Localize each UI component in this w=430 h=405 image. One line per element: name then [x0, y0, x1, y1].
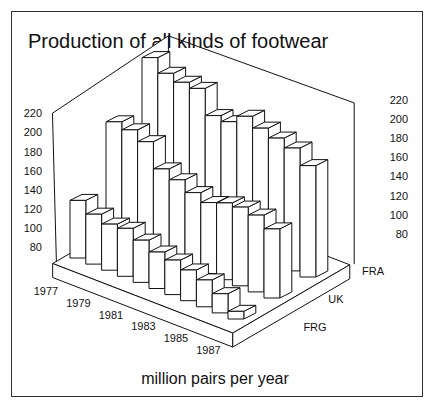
y-axis-left: 80100120140160180200220 — [24, 107, 42, 253]
year-label: 1983 — [131, 320, 155, 332]
bar-front — [165, 260, 181, 295]
y-axis-right: 80100120140160180200220 — [390, 94, 408, 240]
y-tick-label: 220 — [24, 107, 42, 119]
year-label: 1979 — [66, 297, 90, 309]
y-tick-label: 140 — [24, 184, 42, 196]
y-tick-label: 120 — [24, 203, 42, 215]
bar-front — [196, 280, 212, 307]
bar-front — [264, 229, 280, 298]
y-tick-label: 200 — [390, 113, 408, 125]
year-label: 1985 — [164, 332, 188, 344]
y-tick-label: 200 — [24, 126, 42, 138]
y-tick-label: 100 — [390, 209, 408, 221]
y-tick-label: 220 — [390, 94, 408, 106]
bar-front — [133, 240, 149, 282]
y-tick-label: 120 — [390, 190, 408, 202]
bar — [300, 160, 328, 277]
bar-front — [149, 252, 165, 288]
bar — [264, 223, 292, 298]
year-label: 1977 — [34, 285, 58, 297]
y-tick-label: 160 — [390, 151, 408, 163]
country-label: UK — [328, 293, 344, 305]
bar-front — [228, 311, 244, 319]
bar-front — [117, 228, 133, 276]
y-tick-label: 160 — [24, 165, 42, 177]
bar-front — [217, 203, 233, 280]
bar-front — [102, 224, 118, 270]
y-tick-label: 100 — [24, 222, 42, 234]
bar-chart-3d: 8010012014016018020022080100120140160180… — [0, 0, 430, 405]
country-label: FRA — [362, 265, 385, 277]
bar-front — [201, 203, 217, 274]
bar-front — [232, 207, 248, 286]
bar-front — [248, 215, 264, 292]
bar-side — [316, 160, 328, 277]
bar-front — [181, 270, 197, 301]
bar-front — [70, 200, 86, 258]
y-tick-label: 180 — [24, 146, 42, 158]
country-label: FRG — [303, 321, 326, 333]
y-tick-label: 80 — [396, 228, 408, 240]
bar-front — [300, 166, 316, 277]
year-label: 1981 — [99, 309, 123, 321]
y-tick-label: 80 — [30, 241, 42, 253]
y-tick-label: 180 — [390, 132, 408, 144]
bar-front — [212, 294, 228, 313]
bar-front — [86, 214, 102, 264]
bar-side — [280, 223, 292, 298]
y-tick-label: 140 — [390, 170, 408, 182]
year-label: 1987 — [196, 344, 220, 356]
